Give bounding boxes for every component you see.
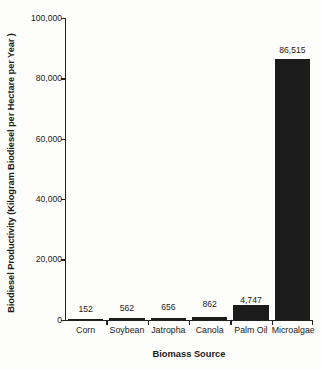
x-tick-label: Palm Oil	[230, 324, 271, 337]
y-tick-mark	[61, 259, 66, 260]
bar	[275, 59, 311, 320]
bar	[151, 318, 187, 320]
bar	[192, 317, 228, 320]
x-tick-label: Corn	[65, 324, 106, 337]
y-tick-label: 80,000	[16, 73, 62, 83]
x-tick-label: Jatropha	[148, 324, 189, 337]
y-tick-mark	[61, 139, 66, 140]
x-axis-title: Biomass Source	[65, 348, 313, 360]
x-tick-label: Canola	[189, 324, 230, 337]
bar-value-label: 562	[106, 303, 147, 313]
plot-area: 1525626568624,74786,515	[65, 18, 313, 321]
x-axis-tick-labels: CornSoybeanJatrophaCanolaPalm OilMicroal…	[65, 324, 313, 338]
y-tick-mark	[61, 78, 66, 79]
bar	[68, 319, 104, 320]
y-axis-spine	[65, 18, 66, 321]
y-tick-label: 60,000	[16, 134, 62, 144]
y-tick-label: 20,000	[16, 254, 62, 264]
bar-value-label: 4,747	[230, 295, 271, 305]
bar-value-label: 152	[65, 304, 106, 314]
y-tick-mark	[61, 18, 66, 19]
y-tick-label: 40,000	[16, 194, 62, 204]
y-tick-label: 0	[16, 315, 62, 325]
x-tick-label: Microalgae	[272, 324, 313, 337]
bar-value-label: 86,515	[272, 45, 313, 55]
y-tick-mark	[61, 199, 66, 200]
bar	[233, 305, 269, 319]
x-tick-label: Soybean	[106, 324, 147, 337]
y-axis-tick-labels: 020,00040,00060,00080,000100,000	[14, 0, 62, 369]
y-tick-mark	[61, 320, 66, 321]
bar-value-label: 862	[189, 299, 230, 309]
y-tick-label: 100,000	[16, 13, 62, 23]
bar-chart-figure: Biodiesel Productivity (Kilogram Biodies…	[0, 0, 321, 369]
bar	[109, 318, 145, 320]
bar-value-label: 656	[148, 302, 189, 312]
